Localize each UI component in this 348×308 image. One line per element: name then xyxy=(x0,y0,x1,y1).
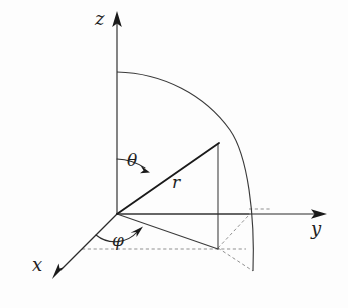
dashed-projection-diagonal xyxy=(218,215,249,248)
spherical-coordinates-figure: z y x r θ φ xyxy=(0,0,348,308)
y-axis-label: y xyxy=(311,220,321,238)
xy-projection-line xyxy=(117,214,218,249)
x-axis-line xyxy=(61,214,117,270)
dashed-diagonal-to-arc xyxy=(218,248,253,271)
diagram-canvas xyxy=(0,0,348,308)
z-axis-label: z xyxy=(95,10,104,28)
phi-angle-label: φ xyxy=(112,232,124,249)
sphere-quarter-arc xyxy=(117,72,253,271)
x-axis-label: x xyxy=(32,256,42,274)
theta-angle-label: θ xyxy=(127,152,137,169)
x-axis-arrowhead xyxy=(52,264,64,280)
phi-angle-arrowhead xyxy=(131,227,144,238)
dashed-construction-group xyxy=(82,209,270,271)
radius-vector-label: r xyxy=(172,174,180,191)
theta-angle-arrowhead xyxy=(140,166,150,174)
